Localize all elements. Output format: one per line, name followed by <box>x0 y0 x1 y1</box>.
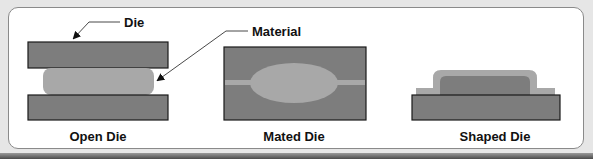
mated-die-caption: Mated Die <box>263 129 324 144</box>
mated-die-panel: Mated Die <box>224 47 366 144</box>
material-callout-label: Material <box>252 24 301 39</box>
open-die-material <box>43 68 154 95</box>
mated-die-material-cavity <box>250 63 338 103</box>
shaped-die-panel: Shaped Die <box>412 70 560 144</box>
die-leader-arrow <box>74 22 120 38</box>
open-die-top-die <box>28 42 168 68</box>
open-die-caption: Open Die <box>69 129 126 144</box>
die-callout: Die <box>74 15 144 38</box>
shaped-die-caption: Shaped Die <box>460 129 531 144</box>
die-types-diagram: Open Die Die Material Mated Die Shaped D… <box>0 0 593 159</box>
open-die-bottom-die <box>28 95 168 120</box>
shaped-die-punch <box>440 76 530 95</box>
die-callout-label: Die <box>124 15 144 30</box>
shaped-die-base <box>412 95 560 120</box>
open-die-panel: Open Die <box>28 42 168 144</box>
